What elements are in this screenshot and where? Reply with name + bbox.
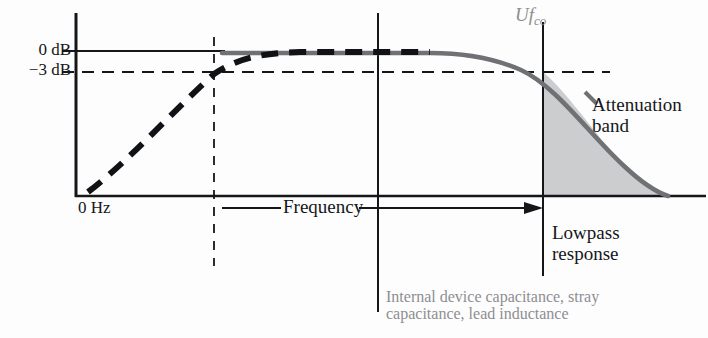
frequency-arrowhead-icon	[524, 202, 543, 214]
upper-cutoff-subscript: co	[534, 13, 546, 28]
upper-cutoff-label: Ufco	[515, 5, 546, 28]
figure-canvas	[0, 0, 708, 338]
lowpass-response-line-2: response	[552, 244, 620, 265]
origin-frequency-label: 0 Hz	[78, 199, 111, 217]
attenuation-band-label: Attenuation band	[592, 95, 682, 136]
internal-capacitance-caption: Internal device capacitance, stray capac…	[386, 288, 599, 323]
minus-3db-label: −3 dB	[10, 61, 71, 79]
frequency-axis-label: Frequency	[283, 197, 363, 218]
lowpass-response-figure: 0 dB −3 dB 0 Hz Frequency Ufco Attenuati…	[0, 0, 708, 338]
caption-line-1: Internal device capacitance, stray	[386, 288, 599, 305]
attenuation-band-line-1: Attenuation	[592, 95, 682, 116]
caption-line-2: capacitance, lead inductance	[386, 305, 599, 322]
attenuation-band-line-2: band	[592, 116, 682, 137]
zero-db-label: 0 dB	[19, 41, 71, 59]
upper-cutoff-symbol: Uf	[515, 4, 534, 25]
lowpass-response-label: Lowpass response	[552, 223, 620, 264]
lowpass-response-line-1: Lowpass	[552, 223, 620, 244]
